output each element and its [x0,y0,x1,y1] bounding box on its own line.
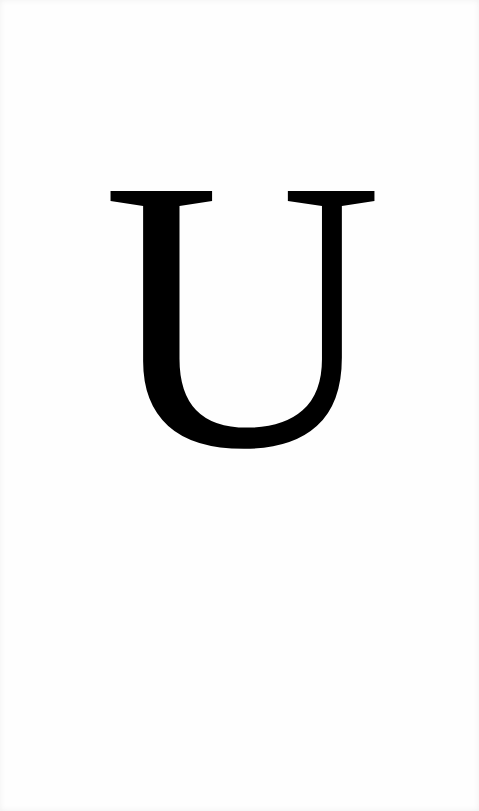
letter-card: U [0,0,479,811]
capital-letter: U [3,120,479,508]
